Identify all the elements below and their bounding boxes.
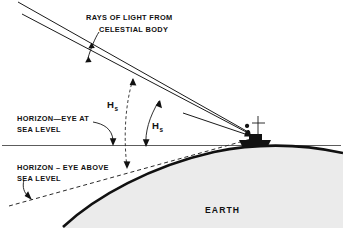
leader-horizon-sea-level-arrowhead <box>110 138 117 146</box>
label-horizon-eye-above-line2: SEA LEVEL <box>17 174 61 183</box>
label-horizon-sea-level-line2: SEA LEVEL <box>17 125 61 134</box>
angle-arc-left-arrowhead-top <box>130 78 137 86</box>
leader-horizon-sea-level <box>93 122 113 140</box>
label-rays-of-light-line1: RAYS OF LIGHT FROM <box>86 13 173 22</box>
diagram-canvas: RAYS OF LIGHT FROM CELESTIAL BODY HORIZO… <box>0 0 343 228</box>
label-rays-of-light-line2: CELESTIAL BODY <box>99 25 168 34</box>
label-angle-hs-left: H s <box>107 99 119 112</box>
label-angle-hs-right: H s <box>152 120 164 133</box>
leader-rays-arrowhead-upper <box>88 42 95 48</box>
label-angle-hs-right-subscript: s <box>160 126 164 133</box>
celestial-navigation-diagram: RAYS OF LIGHT FROM CELESTIAL BODY HORIZO… <box>0 0 343 228</box>
ship-hull <box>239 140 271 146</box>
ship-superstructure <box>249 134 262 140</box>
label-earth: EARTH <box>205 205 240 215</box>
earth-fill <box>62 145 343 228</box>
angle-arc-dashed-hs-left <box>125 79 133 167</box>
leader-horizon-eye-above-arrowhead <box>25 191 32 200</box>
label-horizon-eye-above-line1: HORIZON – EYE ABOVE <box>17 163 109 172</box>
label-horizon-sea-level-line1: HORIZON—EYE AT <box>17 114 89 123</box>
observer-figure <box>245 124 249 128</box>
angle-arc-left-arrowhead-bottom <box>124 161 131 169</box>
label-angle-hs-left-subscript: s <box>115 105 119 112</box>
leader-rays-arrowhead-lower <box>85 57 91 63</box>
label-angle-hs-right-symbol: H <box>152 120 159 131</box>
label-angle-hs-left-symbol: H <box>107 99 114 110</box>
